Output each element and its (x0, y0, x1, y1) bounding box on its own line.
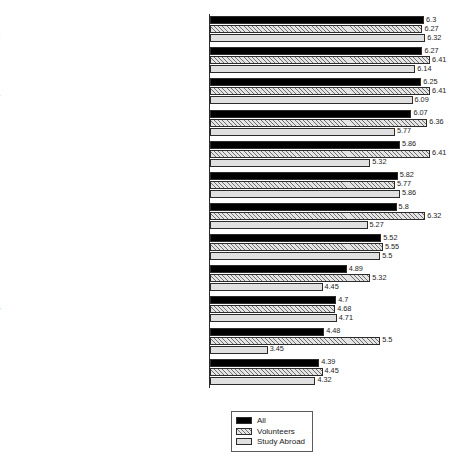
bar-line: 5.55 (210, 243, 457, 251)
bar-volunteers (210, 87, 430, 95)
bar-group: I have a broadened multicultural perspec… (210, 107, 457, 138)
bar-line: 4.7 (210, 296, 457, 304)
bar-line: 6.41 (210, 150, 457, 158)
bar-line: 4.45 (210, 283, 457, 291)
bar-volunteers (210, 119, 427, 127)
bar-value-label: 4.32 (317, 376, 331, 385)
legend-swatch-study-abroad (236, 438, 252, 445)
bar-line: 5.27 (210, 221, 457, 229)
bar-all (210, 47, 422, 55)
bar-volunteers (210, 274, 370, 282)
bar-value-label: 6.36 (429, 118, 443, 127)
bar-stack: 4.394.454.32 (210, 359, 457, 386)
legend-item-volunteers: Volunteers (236, 427, 305, 437)
bar-value-label: 5.86 (402, 140, 416, 149)
bar-all (210, 359, 319, 367)
bar-value-label: 5.55 (385, 243, 399, 252)
bar-study-abroad (210, 283, 323, 291)
bar-study-abroad (210, 346, 268, 354)
bar-all (210, 203, 397, 211)
bar-volunteers (210, 25, 422, 33)
bar-stack: 4.74.684.71 (210, 296, 457, 323)
bar-stack: 4.485.53.45 (210, 328, 457, 355)
bar-study-abroad (210, 128, 395, 136)
bar-line: 5.52 (210, 234, 457, 242)
legend-label-study-abroad: Study Abroad (257, 437, 305, 446)
bar-value-label: 6.09 (415, 96, 429, 105)
bar-line: 6.07 (210, 110, 457, 118)
bar-stack: 5.825.775.86 (210, 172, 457, 199)
bar-volunteers (210, 243, 383, 251)
bar-stack: 6.276.416.14 (210, 47, 457, 74)
bar-line: 5.82 (210, 172, 457, 180)
bar-line: 6.27 (210, 47, 457, 55)
bar-study-abroad (210, 65, 415, 73)
bar-study-abroad (210, 96, 413, 104)
bar-stack: 5.525.555.5 (210, 234, 457, 261)
bar-value-label: 5.86 (402, 189, 416, 198)
plot-area: I have travelled more, or have plans to,… (210, 14, 457, 388)
bar-all (210, 141, 400, 149)
bar-line: 3.45 (210, 346, 457, 354)
legend-label-all: All (257, 416, 266, 425)
bar-group: My experiences abroad have become a part… (210, 76, 457, 107)
bar-value-label: 5.77 (397, 127, 411, 136)
bar-group: I plan on volunteering or working while … (210, 139, 457, 170)
bar-value-label: 6.41 (432, 56, 446, 65)
bar-stack: 6.076.365.77 (210, 110, 457, 137)
bar-all (210, 78, 421, 86)
bar-volunteers (210, 150, 430, 158)
bar-value-label: 5.5 (382, 336, 392, 345)
bar-value-label: 6.41 (432, 149, 446, 158)
legend-item-study-abroad: Study Abroad (236, 437, 305, 447)
bar-study-abroad (210, 34, 425, 42)
bar-study-abroad (210, 314, 337, 322)
bar-group: My perceptions about the value of money … (210, 263, 457, 294)
bar-line: 6.09 (210, 96, 457, 104)
bar-value-label: 6.07 (413, 109, 427, 118)
bar-group: I am more interested in learning other l… (210, 232, 457, 263)
legend-swatch-all (236, 417, 252, 424)
bar-line: 6.3 (210, 16, 457, 24)
bar-stack: 6.256.416.09 (210, 78, 457, 105)
bar-value-label: 6.32 (427, 212, 441, 221)
legend-label-volunteers: Volunteers (257, 427, 295, 436)
grouped-bar-chart: I have travelled more, or have plans to,… (0, 0, 457, 462)
bar-line: 5.5 (210, 337, 457, 345)
bar-all (210, 110, 411, 118)
bar-line: 4.68 (210, 305, 457, 313)
bar-rows: I have travelled more, or have plans to,… (210, 14, 457, 388)
bar-volunteers (210, 368, 323, 376)
bar-all (210, 16, 424, 24)
bar-line: 6.36 (210, 119, 457, 127)
bar-line: 6.25 (210, 78, 457, 86)
bar-stack: 5.86.325.27 (210, 203, 457, 230)
bar-line: 4.48 (210, 328, 457, 336)
bar-line: 4.71 (210, 314, 457, 322)
bar-line: 5.86 (210, 141, 457, 149)
bar-line: 6.14 (210, 65, 457, 73)
bar-study-abroad (210, 252, 380, 260)
bar-group: I read/watch international news more oft… (210, 357, 457, 388)
bar-value-label: 6.3 (426, 16, 436, 25)
bar-value-label: 6.14 (417, 65, 431, 74)
bar-line: 5.8 (210, 203, 457, 211)
bar-value-label: 4.89 (349, 265, 363, 274)
bar-line: 5.32 (210, 159, 457, 167)
bar-line: 4.32 (210, 377, 457, 385)
bar-all (210, 328, 324, 336)
bar-study-abroad (210, 221, 368, 229)
bar-stack: 4.895.324.45 (210, 265, 457, 292)
bar-line: 5.77 (210, 128, 457, 136)
bar-line: 5.86 (210, 190, 457, 198)
bar-line: 6.32 (210, 34, 457, 42)
bar-line: 6.27 (210, 25, 457, 33)
bar-study-abroad (210, 159, 370, 167)
bar-all (210, 265, 347, 273)
bar-volunteers (210, 56, 430, 64)
bar-volunteers (210, 181, 395, 189)
bar-value-label: 5.27 (370, 221, 384, 230)
bar-study-abroad (210, 190, 400, 198)
bar-all (210, 234, 381, 242)
bar-group: I have a better understanding of how the… (210, 170, 457, 201)
